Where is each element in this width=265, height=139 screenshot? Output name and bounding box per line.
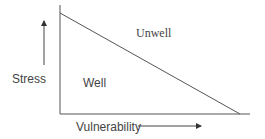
diagram-graphics xyxy=(0,0,265,139)
well-region-label: Well xyxy=(83,77,106,89)
x-axis-label: Vulnerability xyxy=(76,121,141,133)
unwell-region-label: Unwell xyxy=(136,27,171,39)
y-axis-label: Stress xyxy=(12,73,46,85)
stress-vulnerability-diagram: Stress Well Unwell Vulnerability xyxy=(0,0,265,139)
